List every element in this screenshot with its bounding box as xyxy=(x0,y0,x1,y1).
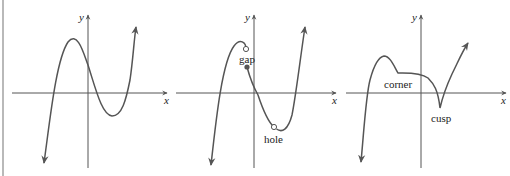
x-axis-label: x xyxy=(163,94,169,106)
axes: x y xyxy=(176,11,337,168)
figure-canvas: x y x y gap hole x y corner cusp xyxy=(0,0,510,176)
axes: x y xyxy=(12,11,169,168)
corner-label: corner xyxy=(384,78,412,90)
gap-open-point xyxy=(243,46,248,51)
panel-gap-hole-graph: x y gap hole xyxy=(176,11,337,168)
panel-corner-cusp-graph: x y corner cusp xyxy=(346,11,506,168)
axes: x y xyxy=(346,11,506,168)
gap-label: gap xyxy=(239,53,255,65)
curve-right-branch xyxy=(277,27,306,131)
y-axis-label: y xyxy=(244,11,250,23)
curve-middle-branch xyxy=(247,67,274,127)
hole-label: hole xyxy=(264,133,283,145)
y-axis-label: y xyxy=(78,11,84,23)
panel-smooth-graph: x y xyxy=(12,11,169,168)
y-axis-label: y xyxy=(411,11,417,23)
x-axis-label: x xyxy=(500,94,506,106)
hole-open-point xyxy=(271,124,276,129)
x-axis-label: x xyxy=(331,94,337,106)
cusp-label: cusp xyxy=(431,112,452,124)
curve xyxy=(361,43,468,162)
gap-closed-point xyxy=(244,64,249,69)
curve xyxy=(44,27,136,163)
